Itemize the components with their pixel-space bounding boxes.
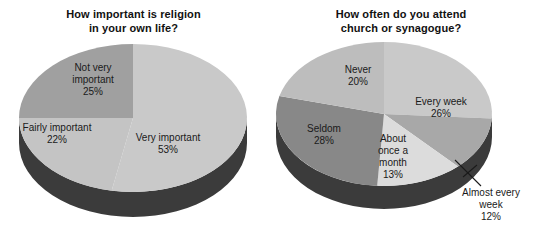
label-fairly-percent: 22% [47, 134, 67, 145]
label-very-text: Very important [136, 132, 201, 143]
label-not-very-line2: important [72, 74, 114, 85]
pie-label-almost-every-week: Almost every week 12% [462, 187, 520, 222]
pie-label-never: Never 20% [345, 64, 372, 87]
pie-top-face [19, 44, 247, 192]
label-month-line3: month [379, 157, 407, 168]
label-never-percent: 20% [348, 76, 368, 87]
pie-chart-attendance: Never 20% Every week 26% Seldom 28% Abou… [267, 0, 535, 236]
label-almost-percent: 12% [481, 211, 501, 222]
label-month-line1: About [380, 133, 406, 144]
label-month-percent: 13% [383, 169, 403, 180]
label-not-very-line1: Not very [74, 62, 111, 73]
chart-panel-religion-importance: How important is religion in your own li… [0, 0, 267, 236]
label-every-week-text: Every week [415, 96, 468, 107]
label-almost-line2: week [478, 199, 503, 210]
label-very-percent: 53% [158, 144, 178, 155]
label-every-week-percent: 26% [431, 108, 451, 119]
label-not-very-percent: 25% [83, 86, 103, 97]
pie-chart-religion: Not very important 25% Fairly important … [0, 0, 267, 236]
label-seldom-percent: 28% [314, 135, 334, 146]
label-almost-line1: Almost every [462, 187, 520, 198]
label-never-text: Never [345, 64, 372, 75]
chart-panel-attendance-frequency: How often do you attend church or synago… [267, 0, 535, 236]
label-fairly-text: Fairly important [23, 122, 92, 133]
label-month-line2: once a [378, 145, 408, 156]
label-seldom-text: Seldom [307, 123, 341, 134]
